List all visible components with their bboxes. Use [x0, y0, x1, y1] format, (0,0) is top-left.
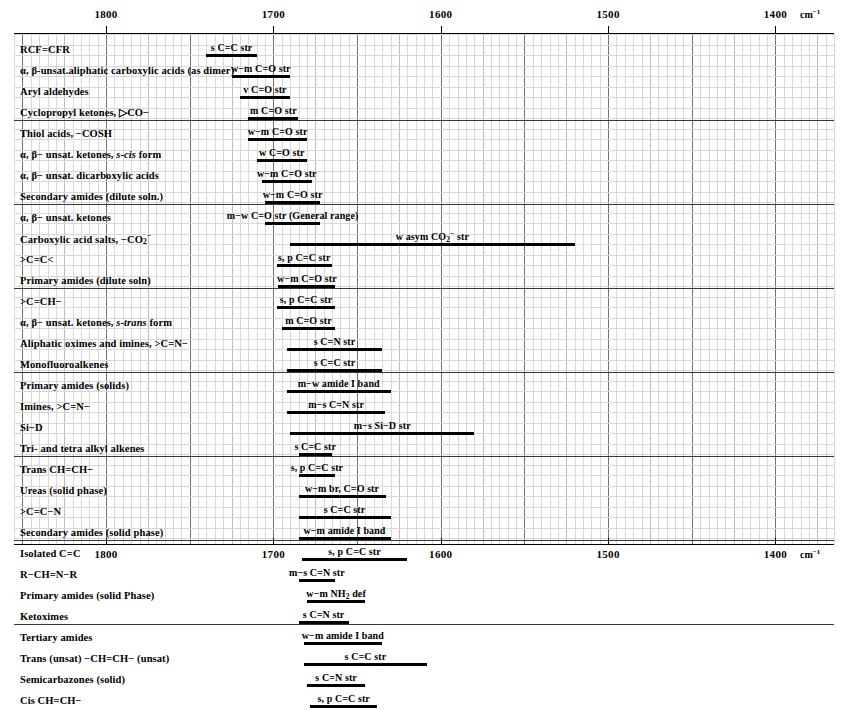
band-bar[interactable] [304, 663, 428, 667]
band-caption: s C=C str [294, 441, 336, 452]
chart-row: RCF=CFRs C=C str [14, 38, 834, 59]
row-label-ureas-solid-phase: Ureas (solid phase) [20, 484, 107, 495]
row-label-cis-ch-ch: Cis CH=CH− [20, 694, 82, 705]
group-separator [14, 540, 834, 541]
chart-row: Imines, >C=N−m−s C=N str [14, 395, 834, 416]
row-label-trans-unsat-ch-ch-unsat: Trans (unsat) −CH=CH− (unsat) [20, 652, 169, 663]
row-label-tri-and-tetra-alkyl-alkenes: Tri- and tetra alkyl alkenes [20, 442, 145, 453]
band-bar[interactable] [287, 411, 386, 415]
band-bar[interactable] [257, 159, 307, 163]
axis-unit-label: cm−1 [800, 8, 820, 20]
band-caption: w−m amide I band [302, 630, 384, 641]
chart-row: Tertiary amidesw−m amide I band [14, 626, 834, 647]
chart-row: Primary amides (solid Phase)w−m NH2 def [14, 584, 834, 605]
chart-row: Ureas (solid phase)w−m br, C=O str [14, 479, 834, 500]
row-label-si-d: Si−D [20, 421, 43, 432]
band-bar[interactable] [290, 432, 474, 436]
row-label-unsat-dicarboxylic-acids: α, β− unsat. dicarboxylic acids [20, 169, 159, 180]
row-label-isolated-c-c: Isolated C=C [20, 547, 81, 558]
row-label-cyclopropyl-ketones-co: Cyclopropyl ketones, ▷CO− [20, 106, 149, 117]
row-label-secondary-amides-dilute-soln: Secondary amides (dilute soln.) [20, 190, 163, 201]
band-bar[interactable] [282, 327, 336, 331]
band-caption: s C=N str [314, 336, 356, 347]
chart-row: Primary amides (solids)m−w amide I band [14, 374, 834, 395]
group-separator [14, 456, 834, 457]
chart-row: Primary amides (dilute soln)w−m C=O str [14, 269, 834, 290]
chart-row: Aryl aldehydesv C=O str [14, 80, 834, 101]
chart-row: Thiol acids, −COSHw−m C=O str [14, 122, 834, 143]
axis-tick-top-1600 [441, 26, 442, 33]
band-bar[interactable] [307, 684, 366, 688]
band-caption: w asym CO2− str [396, 229, 469, 242]
band-bar[interactable] [299, 516, 391, 520]
axis-tick-top-1500 [608, 26, 609, 33]
band-bar[interactable] [307, 600, 366, 604]
band-caption: s C=C str [345, 651, 387, 662]
band-caption: w C=O str [259, 147, 304, 158]
row-label-secondary-amides-solid-phase: Secondary amides (solid phase) [20, 526, 163, 537]
band-bar[interactable] [290, 243, 575, 247]
axis-tick-label-top-1500: 1500 [596, 8, 619, 20]
band-caption: w−m C=O str [263, 189, 323, 200]
chart-row: α, β-unsat.aliphatic carboxylic acids (a… [14, 59, 834, 80]
band-bar[interactable] [277, 306, 336, 310]
band-caption: w−m C=O str [277, 273, 337, 284]
chart-row: α, β− unsat. ketones, s-cis formw C=O st… [14, 143, 834, 164]
row-label-unsat-ketones: α, β− unsat. ketones [20, 211, 111, 222]
row-label-semicarbazones-solid: Semicarbazones (solid) [20, 673, 125, 684]
band-bar[interactable] [299, 495, 386, 499]
band-caption: s, p C=C str [278, 252, 330, 263]
band-caption: m−s C=N str [308, 399, 364, 410]
band-bar[interactable] [277, 264, 332, 268]
band-caption: m−w C=O str (General range) [227, 210, 359, 221]
band-caption: w−m NH2 def [306, 588, 365, 599]
band-bar[interactable] [240, 96, 290, 100]
chart-row: >C=C<s, p C=C str [14, 248, 834, 269]
chart-row: Trans CH=CH−s, p C=C str [14, 458, 834, 479]
band-bar[interactable] [287, 390, 391, 394]
band-bar[interactable] [265, 222, 320, 226]
chart-row: Carboxylic acid salts, −CO2−w asym CO2− … [14, 227, 834, 248]
band-bar[interactable] [310, 705, 377, 709]
axis-tick-bottom-1500 [608, 538, 609, 545]
chart-row: α, β− unsat. ketones, s-trans formm C=O … [14, 311, 834, 332]
row-label-c-c-n: >C=C−N [20, 505, 61, 516]
row-label-unsat-ketones-s-cis-form: α, β− unsat. ketones, s-cis form [20, 148, 161, 159]
band-caption: m C=O str [250, 105, 297, 116]
band-caption: w−m C=O str [231, 63, 291, 74]
chart-row: >C=C−Ns C=C str [14, 500, 834, 521]
band-bar[interactable] [287, 348, 382, 352]
band-caption: s C=C str [324, 504, 366, 515]
band-bar[interactable] [206, 54, 256, 58]
group-separator [14, 288, 834, 289]
chart-row: Semicarbazones (solid)s C=N str [14, 668, 834, 689]
band-caption: w−m C=O str [248, 126, 308, 137]
axis-tick-top-1700 [273, 26, 274, 33]
band-caption: w−m C=O str [257, 168, 317, 179]
axis-tick-label-top-1800: 1800 [94, 8, 117, 20]
band-caption: m−w amide I band [298, 378, 380, 389]
band-bar[interactable] [248, 138, 307, 142]
row-label-thiol-acids-cosh: Thiol acids, −COSH [20, 127, 112, 138]
axis-tick-bottom-1700 [273, 538, 274, 545]
band-caption: m−s Si−D str [354, 420, 411, 431]
chart-row: Cis CH=CH−s, p C=C str [14, 689, 834, 710]
band-bar[interactable] [302, 558, 407, 562]
axis-tick-label-top-1600: 1600 [429, 8, 452, 20]
top-axis-labels: 18001700160015001400cm−1 [0, 8, 849, 26]
axis-tick-top-1800 [106, 26, 107, 33]
row-label-unsat-ketones-s-trans-form: α, β− unsat. ketones, s-trans form [20, 316, 172, 327]
band-bar[interactable] [299, 474, 336, 478]
group-separator [14, 372, 834, 373]
band-bar[interactable] [262, 180, 312, 184]
band-bar[interactable] [299, 579, 336, 583]
row-label-unsat-aliphatic-carboxylic-acids-as-dime: α, β-unsat.aliphatic carboxylic acids (a… [20, 64, 234, 75]
band-bar[interactable] [232, 75, 291, 79]
row-label-aryl-aldehydes: Aryl aldehydes [20, 85, 89, 96]
band-bar[interactable] [304, 642, 383, 646]
row-label-trans-ch-ch: Trans CH=CH− [20, 463, 93, 474]
chart-plot-area: RCF=CFRs C=C strα, β-unsat.aliphatic car… [14, 33, 834, 545]
band-caption: m C=O str [285, 315, 332, 326]
group-separator [14, 624, 834, 625]
